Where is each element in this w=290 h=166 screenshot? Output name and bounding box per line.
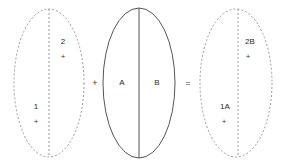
diagram-canvas: 2 + 1 + + A B = 2B + 1A + bbox=[0, 0, 290, 166]
ellipse-left-top-plus: + bbox=[61, 53, 66, 61]
ellipse-right-outline bbox=[200, 9, 272, 157]
ellipse-left-bottom-plus: + bbox=[34, 118, 39, 126]
operator-equals: = bbox=[185, 79, 190, 88]
ellipse-left-bottom-label: 1 bbox=[34, 103, 39, 111]
ellipse-right-top-plus: + bbox=[246, 53, 251, 61]
ellipse-left-top-label: 2 bbox=[61, 38, 66, 46]
ellipse-right-bottom-label: 1A bbox=[220, 103, 230, 111]
ellipse-middle-right-label: B bbox=[154, 79, 160, 87]
operator-plus: + bbox=[92, 79, 97, 88]
ellipse-right-top-label: 2B bbox=[245, 38, 255, 46]
ellipse-right-bottom-plus: + bbox=[222, 118, 227, 126]
diagram-vector-layer bbox=[0, 0, 290, 166]
ellipse-middle-left-label: A bbox=[119, 79, 125, 87]
